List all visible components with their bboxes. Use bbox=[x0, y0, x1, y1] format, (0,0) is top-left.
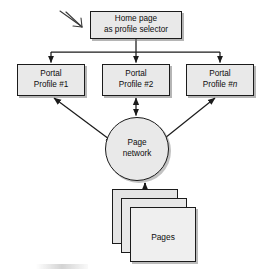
node-home-page[interactable]: Home page as profile selector bbox=[90, 11, 182, 39]
node-portal-profile-n-line1: Portal bbox=[209, 69, 230, 80]
node-page-network[interactable]: Page network bbox=[105, 117, 169, 181]
scan-artifact bbox=[36, 264, 88, 269]
edge-network-profileN bbox=[160, 98, 215, 142]
node-home-line2: as profile selector bbox=[104, 25, 168, 36]
node-portal-profile-2[interactable]: Portal Profile #2 bbox=[102, 64, 170, 96]
node-pages[interactable]: Pages bbox=[130, 207, 196, 262]
node-portal-profile-1[interactable]: Portal Profile #1 bbox=[17, 64, 85, 96]
hand-drawn-arrow-icon bbox=[58, 8, 88, 32]
node-portal-profile-2-line2: Profile #2 bbox=[119, 80, 154, 91]
node-page-network-line2: network bbox=[123, 149, 152, 160]
node-pages-label: Pages bbox=[151, 232, 175, 242]
node-portal-profile-2-line1: Portal bbox=[125, 69, 146, 80]
node-portal-profile-n-line2: Profile #n bbox=[203, 80, 238, 91]
edge-network-profile1 bbox=[54, 98, 113, 142]
node-home-line1: Home page bbox=[115, 14, 157, 25]
node-portal-profile-1-line2: Profile #1 bbox=[34, 80, 69, 91]
node-portal-profile-n[interactable]: Portal Profile #n bbox=[186, 64, 254, 96]
diagram-canvas: Home page as profile selector Portal Pro… bbox=[0, 0, 264, 273]
node-page-network-line1: Page bbox=[127, 138, 146, 149]
node-portal-profile-1-line1: Portal bbox=[40, 69, 61, 80]
